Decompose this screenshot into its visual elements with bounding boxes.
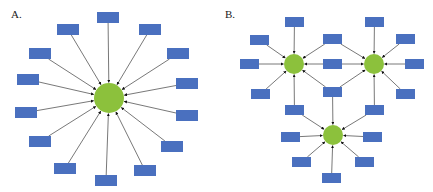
peripheral-node-box xyxy=(29,136,51,147)
peripheral-node-box xyxy=(323,59,342,69)
peripheral-node-box xyxy=(355,157,374,167)
peripheral-node-box xyxy=(363,132,382,142)
peripheral-node-box xyxy=(250,35,269,45)
panel-a-single-hub-network xyxy=(15,12,198,186)
panel-b-edges xyxy=(259,27,405,173)
edge-arrow-A1-to-A-hub xyxy=(108,23,109,83)
edge-arrow-B4-to-B-left xyxy=(266,71,286,89)
edge-arrow-B18-to-B-bottom xyxy=(332,146,333,174)
edge-arrow-A7-to-A-hub xyxy=(124,86,176,96)
hub-node-circle xyxy=(364,54,384,74)
panel-b-label: B. xyxy=(225,9,235,20)
peripheral-node-box xyxy=(134,165,156,176)
edge-arrow-B9-to-B-bottom xyxy=(342,115,366,130)
peripheral-node-box xyxy=(57,24,79,35)
peripheral-node-box xyxy=(365,17,384,27)
peripheral-node-box xyxy=(396,89,415,99)
hub-node-circle xyxy=(94,83,124,113)
peripheral-node-box xyxy=(176,110,198,121)
edge-arrow-B11-to-B-right xyxy=(382,44,399,58)
edge-arrow-A4-to-A-hub xyxy=(49,59,97,90)
peripheral-node-box xyxy=(365,105,384,115)
edge-arrow-B5-to-B-left xyxy=(303,44,325,58)
peripheral-node-box xyxy=(240,59,259,69)
peripheral-node-box xyxy=(54,163,76,174)
panel-a-label: A. xyxy=(11,9,22,20)
peripheral-node-box xyxy=(281,132,300,142)
panel-b-multi-hub-network xyxy=(240,17,424,183)
peripheral-node-box xyxy=(323,34,342,44)
edge-arrow-B7-to-B-left xyxy=(303,70,326,87)
peripheral-node-box xyxy=(97,12,119,23)
edge-arrow-B13-to-B-right xyxy=(382,71,401,89)
edge-arrow-B8-to-B-bottom xyxy=(302,115,324,129)
peripheral-node-box xyxy=(285,17,304,27)
edge-arrow-A13-to-A-hub xyxy=(116,112,142,165)
network-diagram-figure: A. B. xyxy=(0,0,433,192)
peripheral-node-box xyxy=(285,105,304,115)
edge-arrow-B7-to-B-right xyxy=(340,70,365,87)
peripheral-node-box xyxy=(15,107,37,118)
peripheral-node-box xyxy=(167,48,189,59)
edge-arrow-B5-to-B-right xyxy=(341,44,365,59)
peripheral-node-box xyxy=(17,74,39,85)
edge-arrow-A3-to-A-hub xyxy=(117,35,147,85)
hub-node-circle xyxy=(284,54,304,74)
edge-arrow-A2-to-A-hub xyxy=(71,35,101,85)
peripheral-node-box xyxy=(176,78,198,89)
edge-arrow-A10-to-A-hub xyxy=(49,106,96,136)
peripheral-node-box xyxy=(161,141,183,152)
edge-arrow-B17-to-B-bottom xyxy=(341,142,359,157)
edge-arrow-B15-to-B-bottom xyxy=(344,136,364,137)
edge-arrow-B2-to-B-left xyxy=(267,45,286,58)
peripheral-node-box xyxy=(292,157,311,167)
edge-arrow-B16-to-B-bottom xyxy=(307,142,325,157)
peripheral-node-box xyxy=(139,24,161,35)
diagram-canvas xyxy=(0,0,433,192)
edge-arrow-A8-to-A-hub xyxy=(37,101,94,111)
edge-arrow-A6-to-A-hub xyxy=(39,82,94,95)
peripheral-node-box xyxy=(29,48,51,59)
hub-node-circle xyxy=(323,125,343,145)
edge-arrow-A14-to-A-hub xyxy=(106,114,108,176)
peripheral-node-box xyxy=(323,87,342,97)
peripheral-node-box xyxy=(95,175,117,186)
panel-a-hubs xyxy=(94,83,124,113)
peripheral-node-box xyxy=(405,59,424,69)
peripheral-node-box xyxy=(396,34,415,44)
peripheral-node-box xyxy=(322,173,341,183)
peripheral-node-box xyxy=(251,89,270,99)
edge-arrow-A5-to-A-hub xyxy=(122,59,170,90)
edge-arrow-A9-to-A-hub xyxy=(124,101,176,113)
edge-arrow-B14-to-B-bottom xyxy=(300,136,323,137)
edge-arrow-A12-to-A-hub xyxy=(68,111,100,163)
